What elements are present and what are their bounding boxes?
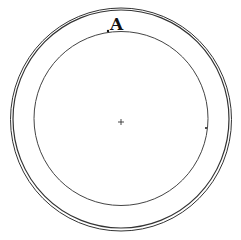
point-a-label: A bbox=[109, 14, 124, 34]
center-marker bbox=[118, 119, 124, 125]
right-point-dot bbox=[205, 127, 207, 129]
point-a-dot bbox=[107, 30, 109, 32]
concentric-circles-diagram: A bbox=[0, 0, 241, 240]
inner-circle bbox=[34, 32, 208, 206]
